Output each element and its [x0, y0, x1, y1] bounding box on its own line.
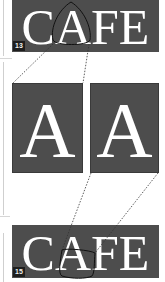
divider	[0, 58, 12, 59]
page-edge-line	[3, 62, 4, 215]
cafe-figure-bottom: CAFE 15	[12, 225, 159, 278]
letter-a-right: A	[91, 90, 158, 170]
divider	[0, 216, 10, 217]
page-edge-line	[3, 0, 4, 56]
letter-a-panel-left: A	[12, 83, 83, 173]
page-edge-line	[3, 233, 4, 282]
figure-number-badge-13: 13	[13, 41, 25, 51]
figure-number-badge-15: 15	[13, 267, 25, 277]
letter-a-left: A	[13, 90, 82, 170]
letter-a-panel-right: A	[90, 83, 159, 173]
cafe-word-bottom: CAFE	[12, 228, 159, 278]
cafe-word-top: CAFE	[12, 2, 159, 52]
cafe-figure-top: CAFE 13	[12, 0, 159, 52]
